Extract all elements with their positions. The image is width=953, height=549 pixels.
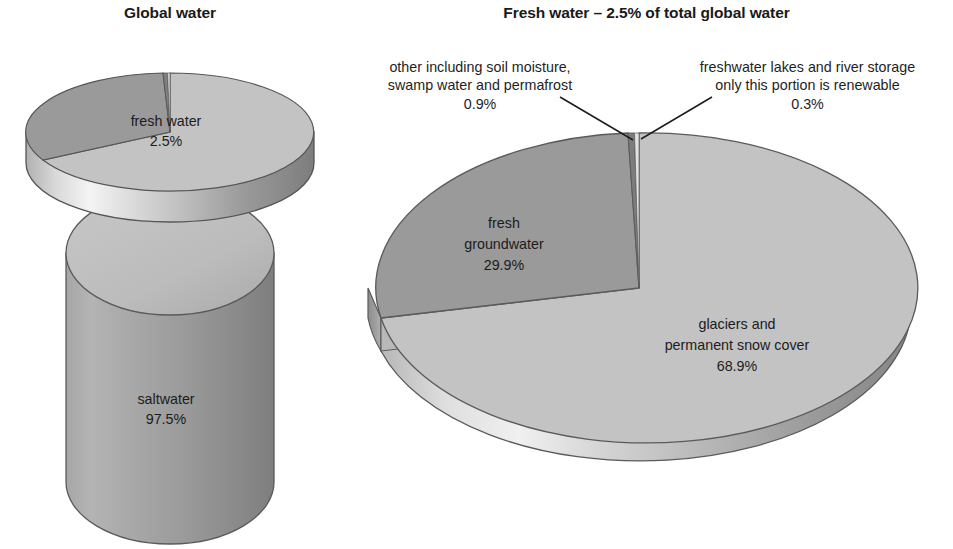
leader-line-lakes	[641, 97, 712, 139]
charts-graphics-layer: saltwater 97.5% fresh water 2.5%	[0, 0, 953, 549]
global-water-cylinder-chart: saltwater 97.5% fresh water 2.5%	[26, 73, 314, 544]
pie-label-groundwater-line-1: fresh	[488, 215, 520, 231]
pie-label-groundwater-value: 29.9%	[484, 257, 525, 273]
disc-value-fresh-water: 2.5%	[150, 133, 183, 149]
pie-label-groundwater-line-2: groundwater	[464, 236, 544, 252]
figure-root: Global water Fresh water – 2.5% of total…	[0, 0, 953, 549]
disc-label-fresh-water: fresh water	[131, 113, 202, 129]
pie-label-glaciers-line-1: glaciers and	[698, 316, 775, 332]
fresh-water-pie-chart: fresh groundwater 29.9% glaciers and per…	[368, 97, 918, 461]
cylinder-label-saltwater: saltwater	[137, 391, 194, 407]
pie-label-glaciers-value: 68.9%	[717, 358, 758, 374]
cylinder-value-saltwater: 97.5%	[146, 411, 187, 427]
leader-line-other	[560, 97, 633, 140]
pie-label-glaciers-line-2: permanent snow cover	[665, 337, 810, 353]
